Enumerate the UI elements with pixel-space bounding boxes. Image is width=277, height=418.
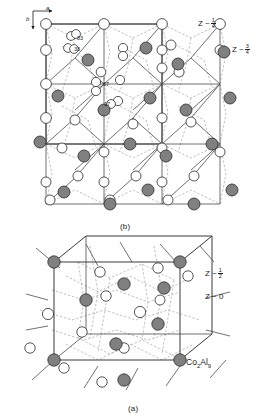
- panel-caption-b: (b): [120, 222, 130, 231]
- fraction-one-quarter: 14: [211, 18, 216, 30]
- axis-label-b: b: [26, 16, 29, 22]
- al-atoms-a: [25, 263, 193, 387]
- z-label-one-quarter: Z ~14: [198, 18, 216, 30]
- fraction-three-quarters: 34: [245, 44, 250, 56]
- element-co: Co: [186, 357, 197, 367]
- al-atoms-b: [41, 19, 226, 205]
- panel-b-group: [33, 11, 238, 210]
- site-label-33: 33: [74, 46, 80, 52]
- fraction-one-half: 12: [218, 268, 223, 280]
- element-al: Al: [200, 357, 208, 367]
- axis-label-a: a: [46, 5, 49, 11]
- z-label-three-quarters: Z ~34: [232, 44, 250, 56]
- z-prefix: Z ~: [232, 45, 244, 54]
- z-label-zero: Z ~ 0: [205, 292, 223, 301]
- z-prefix: Z ~: [198, 19, 210, 28]
- structure-drawing: .solid{stroke:#4d4d4d;stroke-width:0.8;f…: [0, 0, 277, 418]
- compound-formula: Co2Al9: [186, 357, 211, 369]
- panel-caption-a: (a): [128, 404, 138, 413]
- fraction-denominator: 2: [218, 273, 223, 280]
- site-label-83: 83: [77, 35, 83, 41]
- z-label-one-half: Z ~12: [205, 268, 223, 280]
- site-label-17: 17: [104, 101, 110, 107]
- subscript-al: 9: [208, 363, 211, 369]
- z-prefix: Z ~: [205, 269, 217, 278]
- fraction-denominator: 4: [211, 23, 216, 30]
- crystal-structure-figure: .solid{stroke:#4d4d4d;stroke-width:0.8;f…: [0, 0, 277, 418]
- site-label-67: 67: [103, 81, 109, 87]
- fraction-denominator: 4: [245, 49, 250, 56]
